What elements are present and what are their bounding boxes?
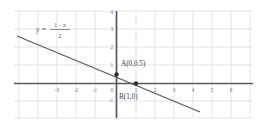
point-b-label: B(1,0) xyxy=(119,93,138,101)
x-tick-label--1: -1 xyxy=(93,87,98,93)
graph-screenshot: -3 -2 -1 0 1 2 3 4 5 6 -1 1 2 3 4 A(0,0.… xyxy=(0,0,267,127)
y-tick-label-1: 1 xyxy=(110,62,113,68)
x-tick-label-6: 6 xyxy=(230,87,233,93)
x-tick-label-4: 4 xyxy=(192,87,195,93)
y-tick-label-4: 4 xyxy=(110,9,113,15)
y-tick-label-2: 2 xyxy=(110,44,113,50)
coordinate-plot: -3 -2 -1 0 1 2 3 4 5 6 -1 1 2 3 4 A(0,0.… xyxy=(0,0,267,127)
equation-lhs: y = xyxy=(35,25,46,34)
x-tick-label-0: 0 xyxy=(111,87,114,93)
x-tick-label-1: 1 xyxy=(135,87,138,93)
equation-denominator: 2 xyxy=(58,32,61,39)
x-tick-label-3: 3 xyxy=(173,87,176,93)
y-tick-label--1: -1 xyxy=(109,97,114,103)
point-a-label: A(0,0.5) xyxy=(121,60,146,68)
x-tick-label--2: -2 xyxy=(74,87,79,93)
y-tick-label-3: 3 xyxy=(110,26,113,32)
x-tick-label--3: -3 xyxy=(55,87,60,93)
point-a-marker xyxy=(114,72,118,76)
point-b-marker xyxy=(134,81,138,85)
equation-numerator: 1 - x xyxy=(54,21,67,28)
x-tick-label-2: 2 xyxy=(154,87,157,93)
x-tick-label-5: 5 xyxy=(211,87,214,93)
